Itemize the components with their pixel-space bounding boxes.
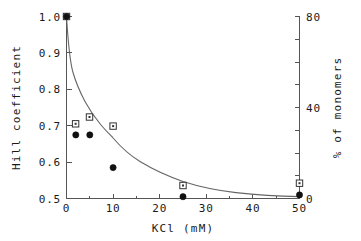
data-point-circle [63,13,69,19]
y-left-ticklabel: 0.7 [39,120,61,133]
x-ticklabel: 40 [245,202,260,215]
data-point-square [86,114,92,120]
y-right-ticklabel: 40 [306,102,321,115]
y-right-ticklabel: 80 [306,11,321,24]
y-left-ticklabel: 1.0 [39,11,61,24]
y-axis-left-title: Hill coefficient [10,45,23,170]
series-open-square-markers [63,13,302,188]
series-filled-circle-markers [63,13,302,199]
y-left-ticklabel: 0.8 [39,83,61,96]
data-point-square [296,180,302,186]
data-point-square [72,121,78,127]
x-ticklabel: 50 [292,202,307,215]
y-axis-right-ticks [295,17,300,199]
scatter-plot-svg: 0.5 0.6 0.7 0.8 0.9 1.0 0 10 20 30 40 50… [0,0,361,241]
chart-figure: 0.5 0.6 0.7 0.8 0.9 1.0 0 10 20 30 40 50… [0,0,361,241]
x-ticklabel: 30 [199,202,214,215]
data-point-square [180,182,186,188]
y-left-ticklabel: 0.5 [39,193,61,206]
y-left-ticklabel: 0.9 [39,47,61,60]
data-point-circle [296,192,302,198]
y-left-ticklabel: 0.6 [39,156,61,169]
fit-curve-path [67,17,300,197]
data-point-circle [110,165,116,171]
x-ticklabel: 10 [106,202,121,215]
data-point-circle [87,132,93,138]
x-ticklabel: 0 [63,202,70,215]
y-axis-left-ticklabels: 0.5 0.6 0.7 0.8 0.9 1.0 [39,11,61,206]
left-bottom-spine [67,17,300,199]
x-axis-ticklabels: 0 10 20 30 40 50 [63,202,307,215]
data-point-circle [73,132,79,138]
data-point-square [110,123,116,129]
y-right-ticklabel: 0 [306,193,313,206]
y-axis-right-ticklabels: 0 40 80 [306,11,321,206]
data-point-circle [180,194,186,200]
y-axis-right-title: % of monomers [331,57,344,159]
x-axis-title: KCl (mM) [152,222,215,235]
plot-frame [67,17,300,199]
x-ticklabel: 20 [152,202,167,215]
